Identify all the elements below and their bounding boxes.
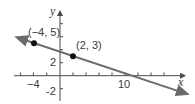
point-label-2-3: (2, 3)	[76, 39, 102, 51]
point-label-neg4-5: (−4, 5)	[28, 26, 60, 38]
point-neg4-5	[31, 40, 37, 46]
y-tick-label-neg2: -2	[46, 85, 56, 97]
point-2-3	[70, 53, 76, 59]
y-tick-label-2: 2	[50, 56, 56, 68]
data-line	[18, 38, 186, 94]
x-axis-label: x	[177, 75, 184, 89]
coordinate-plane: −4 10 2 -2 x y (−4, 5) (2, 3)	[0, 0, 195, 104]
y-axis-label: y	[49, 4, 56, 18]
x-tick-label-neg4: −4	[27, 78, 40, 90]
x-tick-label-10: 10	[118, 78, 130, 90]
